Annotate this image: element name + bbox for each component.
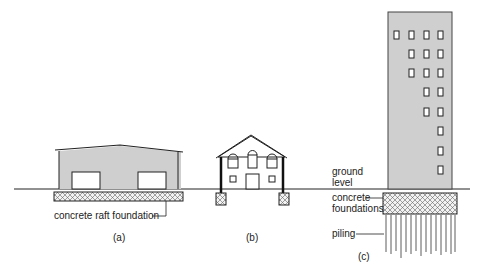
piling-label: piling [332,228,355,239]
caption-b: (b) [246,232,258,243]
building-a-warehouse: concrete raft foundation (a) [54,145,183,243]
building-c-tower: ground level concrete foundations piling… [332,12,457,262]
door-left [72,172,100,189]
foundations-diagram: concrete raft foundation (a) (b) [0,0,477,273]
door-right [138,172,166,189]
caption-a: (a) [113,232,125,243]
caption-c: (c) [358,251,370,262]
raft-foundation [54,192,183,201]
raft-label: concrete raft foundation [54,210,159,221]
concrete-label-1: concrete [332,192,371,203]
ground-label-2: level [332,177,353,188]
pad-footing-right [279,193,289,205]
concrete-label-2: foundations [332,203,384,214]
piles [386,215,455,258]
pad-footing-left [216,193,226,205]
ground-label-1: ground [332,166,363,177]
concrete-foundations [383,193,457,214]
